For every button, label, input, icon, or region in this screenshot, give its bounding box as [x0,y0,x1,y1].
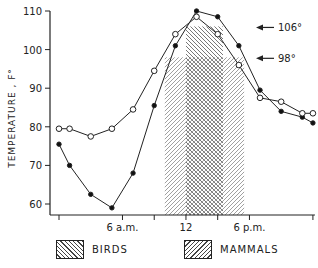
open-data-point [56,126,62,132]
y-tick-label: 60 [29,199,42,210]
filled-data-point [173,44,177,48]
left-arrow-icon [256,24,263,30]
y-tick-label: 80 [29,122,42,133]
open-data-point [278,99,284,105]
legend-item-mammals: MAMMALS [184,240,278,259]
y-tick-label: 100 [23,45,42,56]
y-tick-label: 110 [23,6,42,17]
x-tick-label: 6 a.m. [107,222,139,233]
x-tick-label: 12 [180,222,193,233]
birds-hatch-swatch [56,240,84,259]
filled-data-point [152,103,156,107]
mammals-hatch-swatch [184,240,212,259]
filled-data-point [311,121,315,125]
open-data-point [109,126,115,132]
legend-label-mammals: MAMMALS [220,244,278,255]
filled-data-point [279,109,283,113]
temperature-chart: 607080901001106 a.m.126 p.m. 106°98° TEM… [0,0,318,238]
open-data-point [151,68,157,74]
open-data-point [130,107,136,113]
filled-data-point [57,142,61,146]
left-arrow-icon [256,55,263,61]
open-data-point [194,14,200,20]
open-data-point [257,95,263,101]
open-data-point [236,62,242,68]
legend-label-birds: BIRDS [92,244,128,255]
open-data-point [173,31,179,37]
legend: BIRDS MAMMALS [0,238,318,264]
open-data-point [300,110,306,116]
birds-region [186,26,223,215]
threshold-annotation: 106° [278,22,302,33]
open-data-point [215,31,221,37]
y-tick-label: 90 [29,83,42,94]
filled-data-point [258,88,262,92]
y-tick-label: 70 [29,160,42,171]
annotations: 106°98° [256,22,302,64]
filled-data-point [110,206,114,210]
threshold-annotation: 98° [278,53,296,64]
open-data-point [310,110,316,116]
filled-data-point [131,171,135,175]
open-data-point [88,134,94,140]
filled-data-point [67,163,71,167]
filled-data-point [237,44,241,48]
filled-data-point [216,15,220,19]
x-tick-label: 6 p.m. [233,222,265,233]
filled-data-point [194,9,198,13]
legend-item-birds: BIRDS [56,240,128,259]
y-axis-title: TEMPERATURE , F° [7,68,17,169]
filled-data-point [89,192,93,196]
open-data-point [67,126,73,132]
